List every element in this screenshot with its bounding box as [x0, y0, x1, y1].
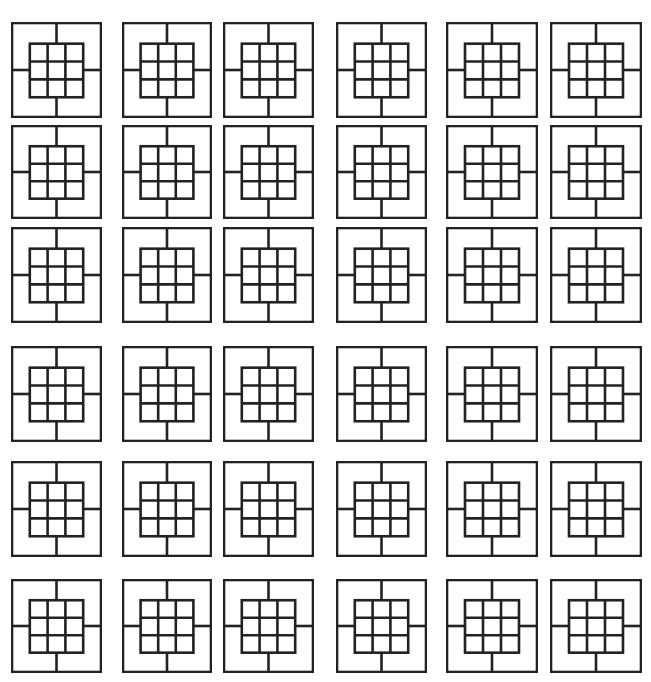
tile-r2-c1 — [11, 125, 102, 219]
tile-r2-c3 — [223, 125, 314, 219]
tile-r1-c4 — [336, 22, 427, 118]
tile-r3-c3 — [223, 227, 314, 323]
tile-r3-c6 — [550, 227, 642, 323]
tile-figure — [336, 346, 427, 442]
tile-figure — [550, 579, 642, 673]
tile-r1-c1 — [11, 22, 102, 118]
tile-figure — [122, 125, 212, 219]
tile-r4-c6 — [550, 346, 642, 442]
tile-figure — [223, 346, 314, 442]
tile-figure — [446, 461, 538, 557]
tile-r4-c3 — [223, 346, 314, 442]
tile-figure — [550, 346, 642, 442]
tile-figure — [550, 227, 642, 323]
tile-r6-c2 — [122, 579, 212, 673]
tile-r5-c5 — [446, 461, 538, 557]
tile-figure — [11, 125, 102, 219]
tile-r3-c4 — [336, 227, 427, 323]
tile-r4-c4 — [336, 346, 427, 442]
tile-figure — [223, 22, 314, 118]
tile-figure — [446, 22, 538, 118]
tile-figure — [336, 461, 427, 557]
tile-figure — [550, 125, 642, 219]
tile-r6-c4 — [336, 579, 427, 673]
tile-figure — [336, 227, 427, 323]
tile-figure — [223, 461, 314, 557]
tile-r5-c6 — [550, 461, 642, 557]
tile-figure — [223, 125, 314, 219]
tile-figure — [550, 461, 642, 557]
tile-figure — [223, 579, 314, 673]
tile-r5-c2 — [122, 461, 212, 557]
tile-figure — [336, 22, 427, 118]
tile-r2-c4 — [336, 125, 427, 219]
tile-figure — [446, 579, 538, 673]
tile-figure — [11, 227, 102, 323]
tile-figure — [446, 346, 538, 442]
tile-r3-c5 — [446, 227, 538, 323]
tile-r2-c2 — [122, 125, 212, 219]
tile-r3-c1 — [11, 227, 102, 323]
tile-figure — [336, 125, 427, 219]
tile-figure — [550, 22, 642, 118]
tile-r4-c5 — [446, 346, 538, 442]
tile-r1-c3 — [223, 22, 314, 118]
tile-r1-c2 — [122, 22, 212, 118]
tile-figure — [122, 22, 212, 118]
tile-r5-c4 — [336, 461, 427, 557]
tile-figure — [11, 22, 102, 118]
tile-r4-c1 — [11, 346, 102, 442]
tile-r5-c1 — [11, 461, 102, 557]
tile-figure — [11, 346, 102, 442]
tile-r2-c6 — [550, 125, 642, 219]
tile-figure — [446, 227, 538, 323]
tile-figure — [11, 579, 102, 673]
tile-figure — [11, 461, 102, 557]
tile-r6-c6 — [550, 579, 642, 673]
tile-figure — [223, 227, 314, 323]
tile-r6-c1 — [11, 579, 102, 673]
tile-r4-c2 — [122, 346, 212, 442]
tile-r1-c5 — [446, 22, 538, 118]
tile-figure — [122, 346, 212, 442]
tile-figure — [122, 579, 212, 673]
tile-figure — [122, 227, 212, 323]
tile-r5-c3 — [223, 461, 314, 557]
tile-figure — [446, 125, 538, 219]
tile-r1-c6 — [550, 22, 642, 118]
tile-r3-c2 — [122, 227, 212, 323]
tile-r6-c5 — [446, 579, 538, 673]
tile-r6-c3 — [223, 579, 314, 673]
tile-r2-c5 — [446, 125, 538, 219]
tile-figure — [122, 461, 212, 557]
tile-figure — [336, 579, 427, 673]
